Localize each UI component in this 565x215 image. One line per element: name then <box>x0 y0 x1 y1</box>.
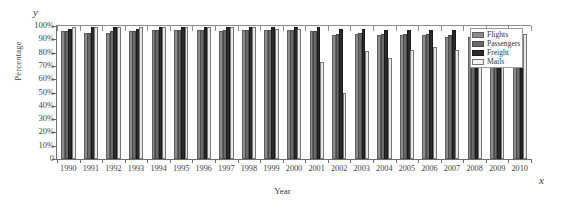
x-tick-mark-bottom <box>102 159 103 163</box>
x-tick-mark-top <box>531 26 532 31</box>
x-tick-label: 2007 <box>444 164 460 173</box>
bar-group <box>400 26 414 159</box>
x-tick-label: 1993 <box>128 164 144 173</box>
x-tick-label: 1997 <box>218 164 234 173</box>
y-tick-label: 100% <box>34 20 54 31</box>
x-axis-title: Year <box>0 186 565 196</box>
bar-group <box>152 26 166 159</box>
bar-mails <box>94 27 98 159</box>
bar-mails <box>207 27 211 159</box>
bar-mails <box>162 27 166 159</box>
x-tick-mark-bottom <box>80 159 81 163</box>
x-tick-label: 2002 <box>331 164 347 173</box>
bar-mails <box>478 55 482 159</box>
x-tick-mark-top <box>238 26 239 31</box>
legend-swatch-icon <box>472 41 484 47</box>
y-axis-title: Percentage <box>13 21 23 101</box>
x-tick-mark-bottom <box>125 159 126 163</box>
bar-group <box>129 26 143 159</box>
x-tick-mark-top <box>373 26 374 31</box>
x-tick-mark-top <box>80 26 81 31</box>
legend-label: Flights <box>487 31 508 39</box>
x-tick-label: 2000 <box>286 164 302 173</box>
x-tick-mark-top <box>170 26 171 31</box>
bar-group <box>219 26 233 159</box>
chart-legend: FlightsPassengersFreightMails <box>470 28 523 68</box>
bar-group <box>422 26 436 159</box>
x-tick-label: 2001 <box>308 164 324 173</box>
bar-mails <box>455 50 459 159</box>
y-tick-label: 50% <box>38 87 54 98</box>
y-axis-letter: y <box>33 6 38 18</box>
bar-mails <box>185 27 189 159</box>
chart-figure: y x Percentage Year 010%20%30%40%50%60%7… <box>0 0 565 215</box>
x-tick-label: 1998 <box>241 164 257 173</box>
legend-label: Passengers <box>487 40 520 48</box>
bar-mails <box>501 59 505 159</box>
legend-item-mails[interactable]: Mails <box>472 57 520 66</box>
bar-group <box>242 26 256 159</box>
bar-group <box>310 26 324 159</box>
x-tick-mark-top <box>328 26 329 31</box>
x-tick-mark-bottom <box>170 159 171 163</box>
x-tick-mark-bottom <box>396 159 397 163</box>
y-tick-label: 30% <box>38 113 54 124</box>
x-tick-mark-top <box>396 26 397 31</box>
legend-item-flights[interactable]: Flights <box>472 30 520 39</box>
legend-swatch-icon <box>472 32 484 38</box>
x-tick-mark-top <box>192 26 193 31</box>
x-tick-label: 2009 <box>489 164 505 173</box>
bar-mails <box>410 50 414 159</box>
bar-group <box>197 26 211 159</box>
x-tick-mark-top <box>418 26 419 31</box>
x-tick-mark-top <box>260 26 261 31</box>
x-tick-mark-top <box>463 26 464 31</box>
y-tick-label: 40% <box>38 100 54 111</box>
x-tick-mark-top <box>57 26 58 31</box>
x-tick-mark-top <box>283 26 284 31</box>
x-tick-mark-bottom <box>260 159 261 163</box>
bar-mails <box>139 27 143 159</box>
y-tick-label: 90% <box>38 33 54 44</box>
bar-group <box>332 26 346 159</box>
bar-group <box>355 26 369 159</box>
bar-mails <box>388 58 392 159</box>
x-tick-label: 2003 <box>354 164 370 173</box>
bar-mails <box>365 51 369 159</box>
x-tick-mark-top <box>441 26 442 31</box>
bar-group <box>377 26 391 159</box>
x-tick-label: 2010 <box>512 164 528 173</box>
bar-mails <box>320 62 324 159</box>
legend-swatch-icon <box>472 59 484 65</box>
y-tick-label: 70% <box>38 60 54 71</box>
x-tick-mark-bottom <box>373 159 374 163</box>
plot-area: 010%20%30%40%50%60%70%80%90%100% 1990199… <box>56 25 531 160</box>
legend-label: Freight <box>487 49 509 57</box>
x-tick-label: 2005 <box>399 164 415 173</box>
bar-mails <box>230 27 234 159</box>
y-tick-label: 10% <box>38 140 54 151</box>
bar-group <box>106 26 120 159</box>
x-tick-mark-top <box>215 26 216 31</box>
x-tick-mark-top <box>125 26 126 31</box>
y-tick-label: 80% <box>38 47 54 58</box>
x-tick-mark-top <box>102 26 103 31</box>
legend-item-passengers[interactable]: Passengers <box>472 39 520 48</box>
legend-item-freight[interactable]: Freight <box>472 48 520 57</box>
x-tick-mark-top <box>350 26 351 31</box>
y-tick-label: 60% <box>38 73 54 84</box>
x-tick-mark-bottom <box>531 159 532 163</box>
x-tick-mark-bottom <box>486 159 487 163</box>
bar-group <box>287 26 301 159</box>
bar-mails <box>523 34 527 159</box>
x-tick-mark-bottom <box>441 159 442 163</box>
bar-group <box>174 26 188 159</box>
x-tick-mark-top <box>147 26 148 31</box>
x-tick-label: 2008 <box>466 164 482 173</box>
x-tick-label: 2004 <box>376 164 392 173</box>
x-tick-mark-bottom <box>508 159 509 163</box>
y-tick-label: 0 <box>50 153 54 164</box>
bar-group <box>264 26 278 159</box>
x-tick-label: 1990 <box>60 164 76 173</box>
bar-mails <box>433 47 437 159</box>
